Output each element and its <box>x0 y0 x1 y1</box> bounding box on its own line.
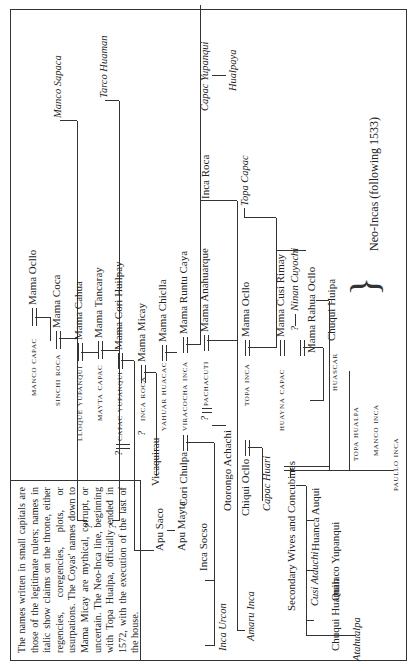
descent-line <box>244 208 245 218</box>
marriage-line <box>204 335 209 351</box>
person-inca-socso: Inca Socso <box>198 523 209 571</box>
ruler-pachacuti: Pachacuti <box>200 361 210 406</box>
claimant-capac-yupanqui: Capac Yupanqui <box>200 42 211 111</box>
uncertain-mark: ? <box>290 326 300 331</box>
person-apu-saco: Apu Saco <box>154 508 165 551</box>
descent-line <box>101 350 119 351</box>
descent-line <box>248 447 262 448</box>
coya-mama-rahua-ocllo: Mama Rahua Ocllo <box>306 267 317 353</box>
descent-line <box>306 486 307 636</box>
descent-line <box>248 347 276 348</box>
descent-line <box>186 442 214 443</box>
inca-roca-2: Inca Roca <box>200 155 211 199</box>
descent-line <box>290 468 291 478</box>
marriage-line <box>116 444 130 449</box>
uncertain-mark: ? <box>137 431 147 436</box>
descent-line <box>167 530 175 531</box>
ruler-huayna-capac: Huayna Capac <box>276 369 286 431</box>
marriage-line <box>141 365 146 383</box>
ruler-yahuar-huacac: Yahuar Huacac <box>158 362 168 431</box>
descent-line <box>205 645 214 646</box>
secondary-wives-label: Secondary Wives and Concubines <box>286 461 297 611</box>
descent-line <box>310 400 323 401</box>
claimant-amaru-inca: Amaru Inca <box>246 591 257 641</box>
descent-line <box>244 217 276 218</box>
marriage-line <box>245 440 250 456</box>
claimant-cusi-atauchi: Cusi Atauchi <box>310 552 321 606</box>
descent-line <box>296 485 306 486</box>
coya-mama-runtu-caya: Mama Runtu Caya <box>178 251 189 334</box>
coya-mama-anahuarque: Mama Anahuarque <box>199 248 210 332</box>
coya-mama-ocllo: Mama Ocllo <box>27 250 38 305</box>
coya-mama-ocllo-2: Mama Ocllo <box>240 282 251 337</box>
descent-line <box>186 344 200 345</box>
descent-line <box>237 630 245 631</box>
ruler-inca-roca: Inca Roca <box>137 377 147 421</box>
descent-line <box>105 100 119 101</box>
ruler-viracocha-inca: Viracocha Inca <box>179 361 189 431</box>
ruler-manco-capac: Manco Capac <box>28 338 38 396</box>
marriage-line <box>183 435 188 451</box>
descent-line <box>112 520 119 521</box>
descent-line <box>77 520 87 521</box>
claimant-hualpaya: Hualpaya <box>228 50 239 91</box>
marriage-line <box>118 353 123 369</box>
descent-line <box>35 317 50 318</box>
ruler-paullo-inca: Paullo Inca <box>390 438 400 491</box>
descent-line <box>144 372 156 373</box>
claimant-manco-sapaca: Manco Sapaca <box>53 55 64 118</box>
descent-line <box>134 550 154 551</box>
descent-line <box>205 580 214 581</box>
descent-line <box>60 120 77 121</box>
genealogy-chart: The names written in small capitals are … <box>0 0 415 671</box>
descent-line <box>212 75 226 76</box>
claimant-atahualpa: Atahualpa <box>352 617 363 661</box>
neo-inca-brace: } <box>345 277 385 296</box>
claimant-inca-urcon: Inca Urcon <box>218 603 229 651</box>
person-apu-mayta: Apu Mayta <box>176 501 187 551</box>
descent-line <box>214 443 215 646</box>
marriage-line <box>162 345 167 361</box>
marriage-line <box>280 340 285 356</box>
coya-mama-cahua: Mama Cahua <box>73 281 84 340</box>
descent-line <box>323 348 324 401</box>
descent-line <box>276 250 306 251</box>
marriage-line <box>202 408 212 413</box>
claimant-capac-huari: Capac Huari <box>262 456 273 511</box>
descent-line <box>134 361 135 551</box>
marriage-line <box>183 337 188 353</box>
claimant-ninan-cuyochi: Ninan Cuyochi <box>290 248 301 311</box>
neo-incas-label: Neo-Incas (following 1533) <box>368 117 380 251</box>
descent-line <box>165 352 177 353</box>
descent-line <box>303 347 323 348</box>
coya-mama-chiclla: Mama Chiclla <box>157 279 168 342</box>
ruler-mayta-capac: Mayta Capac <box>94 365 104 421</box>
person-chiqui-ocllo: Chiqui Ocllo <box>240 459 251 516</box>
ruler-manco-inca: Manco Inca <box>370 404 380 456</box>
person-vicaquirau: Vicaquirau <box>150 438 161 486</box>
person-chuqui-huipa: Chuqui Huipa <box>326 279 337 341</box>
claimant-topa-capac: Topa Capac <box>240 155 251 206</box>
ruler-lloque-yupanqui: Lloque Yupanqui <box>74 366 84 441</box>
ruler-huascar: Huascar <box>329 353 339 391</box>
coya-mama-micay: Mama Micay <box>136 303 147 362</box>
descent-line <box>121 360 134 361</box>
uncertain-mark: ? <box>108 524 118 529</box>
marriage-line <box>245 340 250 356</box>
descent-line <box>276 251 277 271</box>
claimant-tarco-huaman: Tarco Huaman <box>99 35 110 98</box>
descent-line <box>295 314 296 326</box>
coya-mama-cori-huilpay: Mama Cori Huilpay <box>113 261 124 350</box>
ruler-sinchi-roca: Sinchi Roca <box>52 354 62 406</box>
descent-line <box>200 200 237 201</box>
uncertain-mark: ? <box>114 451 124 456</box>
person-cori-chulpa: Cori Chulpa <box>178 452 189 506</box>
legend-note: The names written in small capitals are … <box>16 487 142 653</box>
descent-line <box>207 340 237 341</box>
coya-mama-coca: Mama Coca <box>51 275 62 328</box>
descent-line <box>306 620 314 621</box>
descent-line <box>237 201 238 631</box>
ruler-topa-hualpa: Topa Hualpa <box>350 407 360 461</box>
descent-line <box>212 425 226 426</box>
ruler-capac-yupanqui: Capac Yupanqui <box>114 371 124 441</box>
